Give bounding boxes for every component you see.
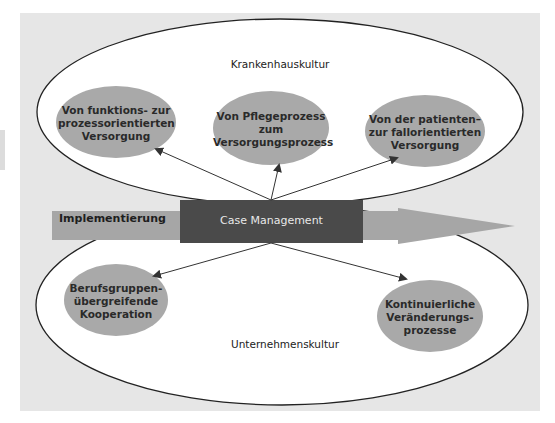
culture-label-top: Krankenhauskultur [200,58,360,71]
case-management-label: Case Management [180,214,363,227]
node-label-top-1: Von funktions- zur prozessorientierten V… [58,104,174,142]
node-label-top-2: Von Pflegeprozess zum Versorgungsprozess [213,110,329,148]
node-label-bottom-1: Berufsgruppen- übergreifende Kooperation [60,282,172,320]
culture-label-bottom: Unternehmenskultur [210,338,360,351]
implementation-label: Implementierung [59,212,179,225]
node-label-bottom-2: Kontinuierliche Veränderungs- prozesse [374,298,486,336]
node-label-top-3: Von der patienten– zur fallorientierten … [367,113,483,151]
